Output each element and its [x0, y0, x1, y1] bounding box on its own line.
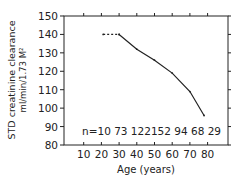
y-tick-label: 100 — [38, 102, 58, 114]
y-tick-label: 120 — [38, 65, 58, 77]
x-tick-label: 40 — [130, 148, 143, 160]
x-tick-label: 60 — [166, 148, 179, 160]
x-tick-label: 10 — [77, 148, 90, 160]
y-tick-label: 130 — [38, 47, 58, 59]
x-axis-label: Age (years) — [117, 164, 175, 175]
y-axis-label: STD creatinine clearance — [6, 20, 17, 139]
sample-size-annotation: n=10 73 122152 94 68 29 — [82, 125, 221, 137]
x-tick-label: 80 — [201, 148, 214, 160]
x-tick-label: 30 — [112, 148, 125, 160]
chart: 8090100110120130140150 1020304050607080 … — [0, 0, 245, 186]
x-tick-label: 70 — [183, 148, 196, 160]
y-tick-label: 150 — [38, 10, 58, 22]
x-axis: 1020304050607080 — [77, 13, 214, 160]
y-tick-label: 110 — [38, 84, 58, 96]
y-tick-label: 80 — [45, 139, 58, 151]
x-tick-label: 20 — [95, 148, 108, 160]
y-axis-units: ml/min/1.73 M² — [18, 48, 28, 113]
data-series — [102, 34, 205, 117]
y-tick-label: 90 — [45, 121, 58, 133]
line-solid — [119, 34, 204, 115]
y-tick-label: 140 — [38, 28, 58, 40]
x-tick-label: 50 — [148, 148, 161, 160]
